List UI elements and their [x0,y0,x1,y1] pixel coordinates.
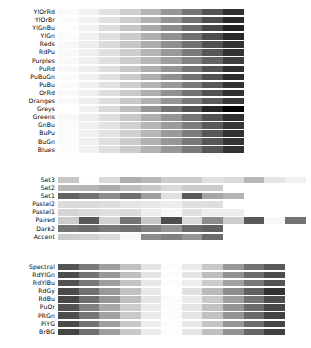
colormap-row: Pastel1 [0,208,311,216]
colormap-swatch [99,185,120,191]
colormap-swatch-bar [58,25,244,31]
colormap-swatch [223,17,244,23]
colormap-swatch [264,304,285,310]
colormap-swatch [223,209,244,215]
colormap-swatch-bar [58,122,244,128]
colormap-row: Set2 [0,184,311,192]
colormap-swatch [182,272,203,278]
colormap-swatch [58,272,79,278]
colormap-swatch [161,193,182,199]
colormap-swatch [58,146,79,152]
colormap-swatch [58,304,79,310]
colormap-swatch [202,304,223,310]
colormap-row: BrBG [0,328,311,336]
colormap-swatch [182,98,203,104]
colormap-swatch [244,217,265,223]
colormap-reference-figure: YlOrRdYlOrBrYlGnBuYlGnRedsRdPuPurplesPuR… [0,0,311,348]
colormap-swatch [223,57,244,63]
colormap-swatch [120,201,141,207]
colormap-swatch-bar [58,234,223,240]
colormap-swatch [223,122,244,128]
colormap-swatch [161,304,182,310]
colormap-name-label: Set3 [41,176,55,184]
colormap-row: YlOrRd [0,8,311,16]
colormap-swatch [161,234,182,240]
colormap-swatch [202,114,223,120]
colormap-row: Spectral [0,263,311,271]
colormap-swatch [202,57,223,63]
colormap-name-label: RdYlBu [33,279,55,287]
colormap-name-label: RdBu [38,295,55,303]
colormap-swatch-bar [58,329,285,335]
colormap-swatch [58,90,79,96]
colormap-swatch [120,146,141,152]
colormap-swatch [161,66,182,72]
colormap-swatch [79,49,100,55]
colormap-swatch [264,272,285,278]
colormap-swatch [120,74,141,80]
colormap-row: Pastel2 [0,200,311,208]
colormap-swatch [99,201,120,207]
colormap-swatch [202,201,223,207]
colormap-swatch [58,225,79,231]
colormap-name-label: PRGn [38,312,55,320]
colormap-swatch [58,74,79,80]
colormap-swatch [99,138,120,144]
colormap-name-label: Purples [32,57,55,65]
colormap-swatch [141,209,162,215]
colormap-swatch [58,312,79,318]
colormap-swatch [161,17,182,23]
colormap-swatch-bar [58,185,223,191]
colormap-swatch-bar [58,217,306,223]
colormap-name-label: PuRd [39,65,55,73]
colormap-swatch [99,130,120,136]
colormap-swatch [120,304,141,310]
colormap-swatch [141,9,162,15]
colormap-swatch [99,193,120,199]
colormap-swatch-bar [58,98,244,104]
colormap-swatch [202,122,223,128]
colormap-swatch [79,296,100,302]
colormap-swatch [99,90,120,96]
colormap-swatch [161,264,182,270]
colormap-swatch [120,272,141,278]
colormap-swatch [161,98,182,104]
colormap-swatch [99,296,120,302]
colormap-swatch [182,66,203,72]
colormap-swatch [161,122,182,128]
colormap-swatch [120,9,141,15]
colormap-swatch [202,185,223,191]
colormap-swatch [79,209,100,215]
colormap-swatch-bar [58,17,244,23]
colormap-swatch [223,321,244,327]
colormap-row: YlOrBr [0,16,311,24]
colormap-swatch [223,329,244,335]
colormap-row: Greens [0,113,311,121]
colormap-swatch [99,264,120,270]
colormap-swatch [141,130,162,136]
colormap-row: PuRd [0,65,311,73]
colormap-swatch [161,288,182,294]
colormap-name-label: OrRd [39,89,55,97]
colormap-name-label: Dark2 [36,225,55,233]
colormap-swatch [161,201,182,207]
colormap-swatch [141,114,162,120]
colormap-swatch [79,280,100,286]
colormap-name-label: Paired [36,216,55,224]
colormap-swatch [99,329,120,335]
colormap-swatch-bar [58,225,223,231]
colormap-swatch [182,329,203,335]
colormap-swatch [223,98,244,104]
colormap-swatch-bar [58,57,244,63]
colormap-swatch [58,66,79,72]
colormap-swatch [120,296,141,302]
colormap-swatch-bar [58,146,244,152]
colormap-swatch-bar [58,272,285,278]
colormap-swatch [141,122,162,128]
colormap-swatch [182,146,203,152]
colormap-swatch [58,193,79,199]
colormap-swatch [182,49,203,55]
colormap-swatch [161,130,182,136]
colormap-swatch-bar [58,312,285,318]
colormap-name-label: PiYG [41,320,55,328]
